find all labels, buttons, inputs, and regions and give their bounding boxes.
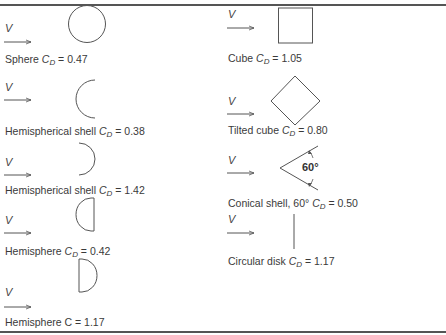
caption-hemispherical-shell-142: Hemispherical shell CD = 1.42 (5, 184, 145, 200)
tilted-cube-shape (271, 76, 320, 125)
velocity-label: V (228, 213, 235, 225)
caption-hemisphere-042: Hemisphere CD = 0.42 (5, 245, 110, 261)
velocity-label: V (5, 22, 12, 34)
velocity-label: V (5, 156, 12, 168)
cube-shape (279, 8, 313, 43)
caption-sphere: Sphere CD = 0.47 (5, 53, 88, 69)
shapes-drawing (0, 0, 446, 335)
cone-angle-label: 60° (302, 161, 319, 173)
caption-cube: Cube CD = 1.05 (228, 52, 302, 68)
caption-hemisphere-117: Hemisphere C = 1.17 (5, 316, 105, 328)
caption-tilted-cube: Tilted cube CD = 0.80 (228, 124, 328, 140)
sphere-shape (69, 6, 106, 43)
velocity-label: V (228, 95, 235, 107)
hemisphere-flat-front-shape (79, 259, 97, 292)
caption-conical-shell: Conical shell, 60° CD = 0.50 (228, 197, 358, 213)
velocity-label: V (228, 8, 235, 20)
hemisphere-round-front-shape (76, 198, 94, 231)
caption-circular-disk: Circular disk CD = 1.17 (228, 255, 334, 271)
velocity-label: V (5, 214, 12, 226)
velocity-label: V (5, 286, 12, 298)
velocity-label: V (5, 81, 12, 93)
hemispherical-shell-concave-front-shape (79, 143, 95, 175)
hemispherical-shell-concave-back-shape (76, 80, 95, 118)
caption-hemispherical-shell-038: Hemispherical shell CD = 0.38 (5, 125, 145, 141)
velocity-label: V (228, 154, 235, 166)
